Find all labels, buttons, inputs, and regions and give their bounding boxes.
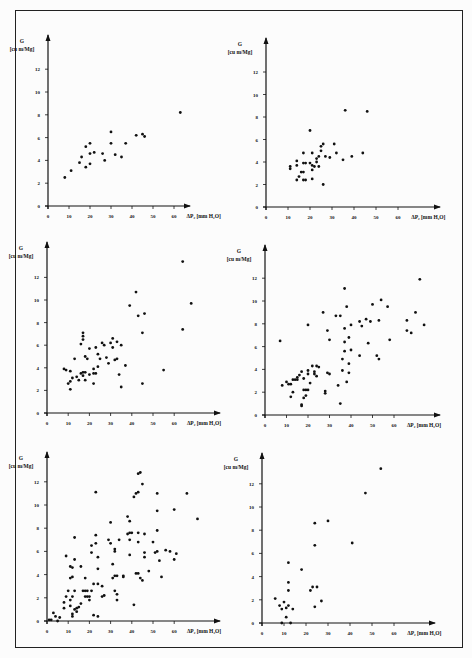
data-point bbox=[175, 552, 178, 555]
data-point bbox=[343, 341, 346, 344]
y-tick-label: 8 bbox=[255, 322, 258, 327]
data-point bbox=[90, 589, 93, 592]
data-point bbox=[128, 554, 131, 557]
y-axis-unit: [cu m/Mg] bbox=[9, 463, 34, 469]
data-point bbox=[309, 589, 312, 592]
data-point bbox=[80, 565, 83, 568]
data-point bbox=[111, 346, 114, 349]
data-point bbox=[313, 370, 316, 373]
x-tick-label: 60 bbox=[172, 629, 178, 634]
data-point bbox=[289, 383, 292, 386]
x-tick-label: 0 bbox=[47, 214, 50, 219]
data-point bbox=[143, 551, 146, 554]
x-tick-label: 10 bbox=[284, 423, 290, 428]
data-point bbox=[139, 471, 142, 474]
y-tick-label: 0 bbox=[38, 204, 41, 209]
data-point bbox=[345, 381, 348, 384]
x-tick-label: 50 bbox=[374, 215, 380, 220]
x-tick-label: 0 bbox=[46, 421, 49, 426]
data-point bbox=[313, 544, 316, 547]
data-point bbox=[343, 327, 346, 330]
data-point bbox=[116, 340, 119, 343]
data-point bbox=[126, 515, 129, 518]
data-point bbox=[137, 314, 140, 317]
data-point bbox=[94, 542, 97, 545]
data-point bbox=[137, 572, 140, 575]
x-tick-label: 10 bbox=[67, 214, 73, 219]
data-point bbox=[335, 314, 338, 317]
scatter-panel-top-right: 0246810120102030405060G[cu m/Mg]ΔP₂ [mm … bbox=[228, 37, 446, 220]
data-point bbox=[317, 366, 320, 369]
data-point bbox=[348, 371, 351, 374]
data-point bbox=[379, 467, 382, 470]
data-point bbox=[128, 304, 131, 307]
data-point bbox=[82, 331, 85, 334]
x-axis-arrow-icon bbox=[184, 204, 191, 209]
data-point bbox=[350, 349, 353, 352]
x-tick-label: 20 bbox=[88, 214, 94, 219]
data-point bbox=[143, 135, 146, 138]
data-point bbox=[139, 577, 142, 580]
x-tick-label: 40 bbox=[129, 629, 135, 634]
data-point bbox=[280, 608, 283, 611]
x-tick-label: 60 bbox=[392, 423, 398, 428]
data-point bbox=[196, 518, 199, 521]
data-point bbox=[156, 492, 159, 495]
data-point bbox=[289, 395, 292, 398]
y-tick-label: 6 bbox=[256, 138, 259, 143]
data-point bbox=[97, 567, 100, 570]
data-point bbox=[133, 496, 136, 499]
data-point bbox=[317, 165, 320, 168]
data-point bbox=[322, 143, 325, 146]
data-point bbox=[69, 605, 72, 608]
data-point bbox=[296, 376, 299, 379]
data-point bbox=[84, 577, 87, 580]
data-point bbox=[84, 371, 87, 374]
data-point bbox=[71, 576, 74, 579]
data-point bbox=[69, 370, 72, 373]
data-point bbox=[156, 529, 159, 532]
data-point bbox=[164, 549, 167, 552]
data-point bbox=[335, 152, 338, 155]
y-tick-label: 2 bbox=[38, 181, 41, 186]
data-point bbox=[289, 622, 292, 625]
data-point bbox=[302, 397, 305, 400]
data-point bbox=[122, 576, 125, 579]
data-point bbox=[65, 369, 68, 372]
data-point bbox=[69, 388, 72, 391]
y-axis-label: G bbox=[237, 248, 242, 254]
data-point bbox=[369, 320, 372, 323]
data-point bbox=[324, 390, 327, 393]
data-point bbox=[82, 374, 85, 377]
data-point bbox=[287, 561, 290, 564]
data-point bbox=[307, 373, 310, 376]
data-point bbox=[300, 370, 303, 373]
data-point bbox=[343, 350, 346, 353]
x-axis-label: ΔP₂ [mm H₂O] bbox=[407, 630, 441, 636]
data-point bbox=[56, 620, 59, 623]
data-point bbox=[327, 520, 330, 523]
data-point bbox=[324, 155, 327, 158]
data-point bbox=[305, 394, 308, 397]
data-point bbox=[84, 145, 87, 148]
data-point bbox=[274, 597, 277, 600]
data-point bbox=[287, 581, 290, 584]
y-axis-unit: [cu m/Mg] bbox=[224, 464, 249, 470]
data-point bbox=[289, 165, 292, 168]
data-point bbox=[328, 156, 331, 159]
y-tick-label: 10 bbox=[249, 505, 255, 510]
y-tick-label: 12 bbox=[34, 480, 40, 485]
y-tick-label: 12 bbox=[249, 482, 255, 487]
data-point bbox=[341, 358, 344, 361]
data-point bbox=[128, 520, 131, 523]
data-point bbox=[88, 599, 91, 602]
data-point bbox=[418, 278, 421, 281]
data-point bbox=[344, 109, 347, 112]
data-point bbox=[101, 342, 104, 345]
data-point bbox=[82, 338, 85, 341]
data-point bbox=[137, 541, 140, 544]
data-point bbox=[103, 344, 106, 347]
data-point bbox=[311, 169, 314, 172]
data-point bbox=[406, 329, 409, 332]
data-point bbox=[116, 574, 119, 577]
